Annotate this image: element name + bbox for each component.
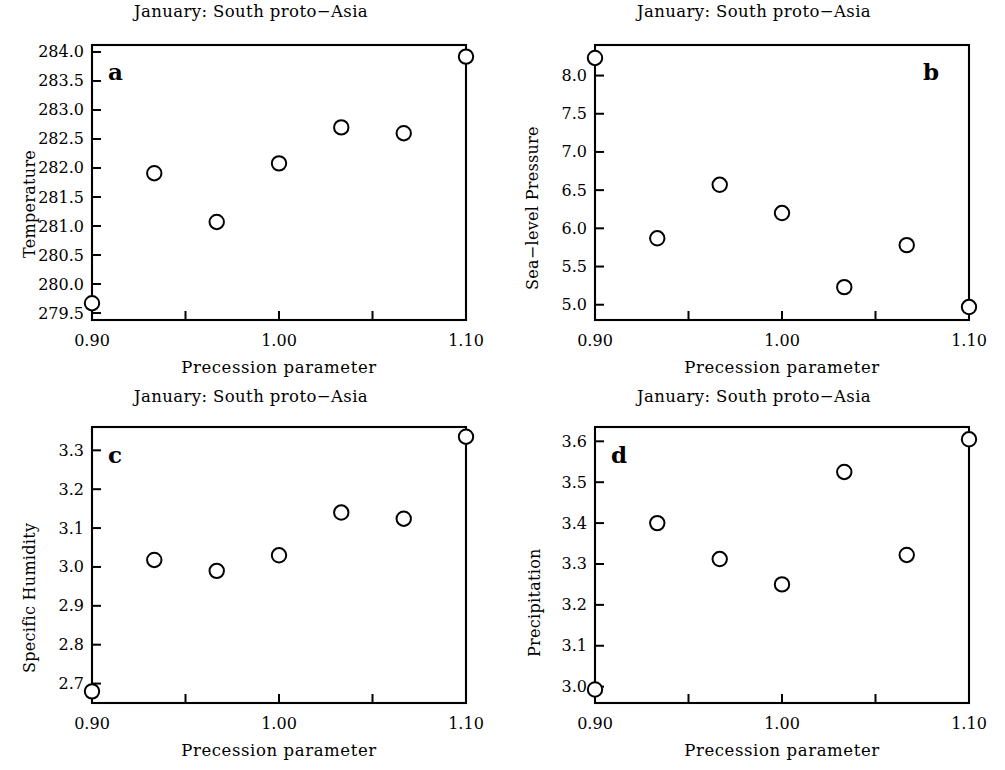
y-tick-label: 3.3 — [59, 441, 84, 460]
x-tick-label: 0.90 — [74, 714, 110, 733]
y-tick-label: 280.5 — [38, 246, 84, 265]
y-tick-label: 5.0 — [562, 295, 587, 314]
x-tick-label: 1.10 — [448, 714, 484, 733]
y-tick-label: 2.9 — [59, 596, 84, 615]
x-tick-label: 0.90 — [577, 331, 613, 350]
data-point — [334, 505, 348, 519]
x-tick-label: 1.10 — [951, 331, 987, 350]
data-point — [459, 49, 473, 63]
data-point — [650, 516, 664, 530]
data-point — [272, 156, 286, 170]
x-tick-label: 1.00 — [261, 714, 297, 733]
y-tick-label: 7.5 — [562, 104, 587, 123]
y-tick-label: 3.0 — [59, 557, 84, 576]
y-tick-label: 6.0 — [562, 219, 587, 238]
y-tick-label: 3.0 — [562, 677, 587, 696]
y-tick-label: 282.5 — [38, 129, 84, 148]
y-tick-label: 2.8 — [59, 635, 84, 654]
y-tick-label: 5.5 — [562, 257, 587, 276]
data-point — [962, 432, 976, 446]
data-point — [900, 238, 914, 252]
plot-frame — [595, 45, 969, 320]
data-point — [85, 296, 99, 310]
data-point — [272, 548, 286, 562]
y-tick-label: 8.0 — [562, 66, 587, 85]
y-tick-label: 284.0 — [38, 42, 84, 61]
panel-a-plot: 279.5280.0280.5281.0281.5282.0282.5283.0… — [0, 0, 502, 385]
data-point — [650, 231, 664, 245]
y-tick-label: 282.0 — [38, 158, 84, 177]
data-point — [147, 553, 161, 567]
y-tick-label: 283.0 — [38, 100, 84, 119]
data-point — [713, 552, 727, 566]
data-point — [147, 166, 161, 180]
y-tick-label: 3.1 — [59, 519, 84, 538]
y-tick-label: 6.5 — [562, 181, 587, 200]
y-tick-label: 3.4 — [562, 514, 587, 533]
panel-c: January: South proto−Asia Specific Humid… — [0, 385, 502, 770]
panel-b-plot: 5.05.56.06.57.07.58.00.901.001.10 — [503, 0, 1005, 385]
plot-frame — [92, 45, 466, 320]
data-point — [588, 682, 602, 696]
data-point — [210, 564, 224, 578]
panel-b: January: South proto−Asia Sea−level Pres… — [503, 0, 1005, 385]
data-point — [397, 126, 411, 140]
x-tick-label: 1.00 — [764, 714, 800, 733]
x-tick-label: 1.00 — [261, 331, 297, 350]
data-point — [397, 512, 411, 526]
data-point — [210, 215, 224, 229]
x-tick-label: 0.90 — [577, 714, 613, 733]
y-tick-label: 3.1 — [562, 636, 587, 655]
data-point — [85, 684, 99, 698]
panel-a: January: South proto−Asia Temperature Pr… — [0, 0, 502, 385]
x-tick-label: 1.10 — [951, 714, 987, 733]
x-tick-label: 0.90 — [74, 331, 110, 350]
y-tick-label: 283.5 — [38, 71, 84, 90]
y-tick-label: 3.3 — [562, 554, 587, 573]
plot-frame — [595, 427, 969, 703]
figure-canvas: January: South proto−Asia Temperature Pr… — [0, 0, 1005, 770]
y-tick-label: 3.2 — [59, 480, 84, 499]
data-point — [837, 280, 851, 294]
data-point — [588, 51, 602, 65]
data-point — [334, 120, 348, 134]
y-tick-label: 280.0 — [38, 275, 84, 294]
panel-d-plot: 3.03.13.23.33.43.53.60.901.001.10 — [503, 385, 1005, 770]
x-tick-label: 1.00 — [764, 331, 800, 350]
y-tick-label: 281.0 — [38, 217, 84, 236]
panel-d: January: South proto−Asia Precipitation … — [503, 385, 1005, 770]
y-tick-label: 2.7 — [59, 674, 84, 693]
x-tick-label: 1.10 — [448, 331, 484, 350]
data-point — [837, 465, 851, 479]
data-point — [459, 430, 473, 444]
data-point — [962, 300, 976, 314]
y-tick-label: 281.5 — [38, 188, 84, 207]
data-point — [775, 577, 789, 591]
data-point — [900, 548, 914, 562]
data-point — [775, 206, 789, 220]
y-tick-label: 3.2 — [562, 595, 587, 614]
y-tick-label: 3.5 — [562, 473, 587, 492]
y-tick-label: 279.5 — [38, 304, 84, 323]
data-point — [713, 178, 727, 192]
panel-c-plot: 2.72.82.93.03.13.23.30.901.001.10 — [0, 385, 502, 770]
y-tick-label: 3.6 — [562, 432, 587, 451]
y-tick-label: 7.0 — [562, 142, 587, 161]
